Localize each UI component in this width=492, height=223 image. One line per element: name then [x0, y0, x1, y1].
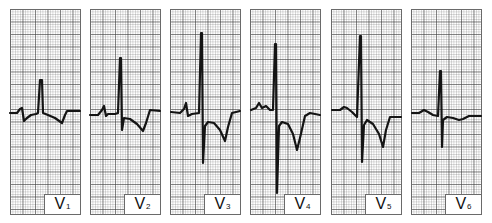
- lead-label-v5: V5: [365, 194, 401, 214]
- lead-label-v4: V4: [284, 194, 320, 214]
- lead-panel-v2: V2: [90, 9, 161, 215]
- lead-letter: V: [214, 196, 225, 212]
- lead-number: 4: [306, 203, 310, 211]
- lead-letter: V: [294, 196, 305, 212]
- lead-number: 6: [467, 203, 471, 211]
- lead-number: 1: [66, 203, 70, 211]
- lead-letter: V: [375, 196, 386, 212]
- lead-number: 5: [387, 203, 391, 211]
- lead-panel-v4: V4: [250, 9, 321, 215]
- lead-panel-v6: V6: [411, 9, 482, 215]
- lead-panel-v3: V3: [170, 9, 241, 215]
- lead-panel-v5: V5: [331, 9, 402, 215]
- lead-letter: V: [54, 196, 65, 212]
- lead-number: 3: [226, 203, 230, 211]
- lead-letter: V: [455, 196, 466, 212]
- lead-label-v6: V6: [445, 194, 481, 214]
- lead-label-v3: V3: [204, 194, 240, 214]
- lead-label-v2: V2: [124, 194, 160, 214]
- lead-panel-v1: V1: [10, 9, 81, 215]
- lead-letter: V: [134, 196, 145, 212]
- lead-label-v1: V1: [44, 194, 80, 214]
- lead-number: 2: [146, 203, 150, 211]
